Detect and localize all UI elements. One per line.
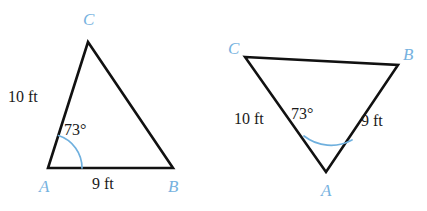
right-triangle-side-label-ab: 9 ft <box>361 113 383 129</box>
left-triangle-outline <box>48 42 173 168</box>
left-triangle-vertex-label-c: C <box>83 11 94 28</box>
left-triangle-vertex-label-a: A <box>39 178 49 195</box>
left-triangle-angle-arc <box>59 136 83 169</box>
right-triangle-angle-label-a: 73° <box>291 106 313 122</box>
right-triangle-vertex-label-a: A <box>321 182 331 199</box>
geometry-figure: C A B 10 ft 9 ft 73° C B A 10 ft 9 ft 73… <box>0 0 427 211</box>
left-triangle-side-label-ab: 9 ft <box>92 176 114 192</box>
figure-canvas <box>0 0 427 211</box>
right-triangle-side-label-ca: 10 ft <box>234 111 264 127</box>
left-triangle-angle-label-a: 73° <box>64 122 86 138</box>
right-triangle-vertex-label-c: C <box>228 40 239 57</box>
right-triangle-angle-arc <box>304 136 352 145</box>
right-triangle-vertex-label-b: B <box>403 46 413 63</box>
left-triangle-vertex-label-b: B <box>168 178 178 195</box>
left-triangle-side-label-ca: 10 ft <box>8 89 38 105</box>
